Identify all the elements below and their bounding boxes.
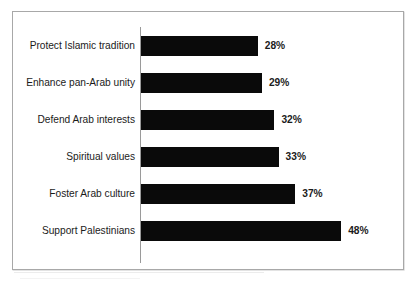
- bar-row: Foster Arab culture 37%: [13, 184, 403, 204]
- bar-track: 28%: [141, 36, 258, 56]
- bar-row: Protect Islamic tradition 28%: [13, 36, 403, 56]
- bar-value-label: 37%: [302, 189, 322, 199]
- bar-fill: 29%: [141, 73, 262, 93]
- bar-track: 48%: [141, 221, 341, 241]
- bar-fill: 37%: [141, 184, 295, 204]
- bar-category-label: Defend Arab interests: [37, 115, 135, 125]
- bar-value-label: 48%: [348, 226, 368, 236]
- scan-artifact: [14, 272, 264, 273]
- bar-fill: 33%: [141, 147, 279, 167]
- bar-track: 29%: [141, 73, 262, 93]
- bar-category-label: Support Palestinians: [42, 226, 135, 236]
- bar-row: Support Palestinians 48%: [13, 221, 403, 241]
- bar-track: 37%: [141, 184, 295, 204]
- bar-row: Enhance pan-Arab unity 29%: [13, 73, 403, 93]
- bar-value-label: 33%: [286, 152, 306, 162]
- bar-row: Defend Arab interests 32%: [13, 110, 403, 130]
- scan-artifact: [20, 278, 140, 279]
- bar-category-label: Spiritual values: [66, 152, 135, 162]
- bar-fill: 32%: [141, 110, 274, 130]
- bar-row: Spiritual values 33%: [13, 147, 403, 167]
- bar-category-label: Enhance pan-Arab unity: [26, 78, 135, 88]
- bar-fill: 48%: [141, 221, 341, 241]
- chart-frame: Protect Islamic tradition 28% Enhance pa…: [12, 11, 404, 270]
- bar-category-label: Foster Arab culture: [49, 189, 135, 199]
- bar-category-label: Protect Islamic tradition: [30, 41, 135, 51]
- bar-fill: 28%: [141, 36, 258, 56]
- bar-value-label: 28%: [265, 41, 285, 51]
- bar-value-label: 29%: [269, 78, 289, 88]
- plot-area: Protect Islamic tradition 28% Enhance pa…: [13, 12, 403, 269]
- bar-track: 32%: [141, 110, 274, 130]
- bar-track: 33%: [141, 147, 279, 167]
- bar-value-label: 32%: [281, 115, 301, 125]
